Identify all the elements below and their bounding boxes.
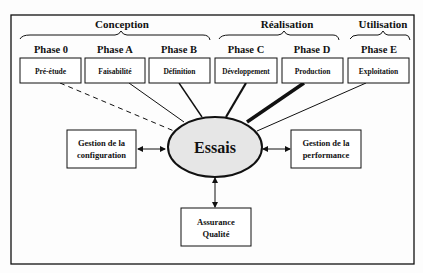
svg-text:configuration: configuration xyxy=(77,150,126,160)
svg-text:Exploitation: Exploitation xyxy=(359,67,399,76)
link-pre-etude xyxy=(60,83,174,131)
phase-box-production: Production xyxy=(282,58,343,83)
box-gestion-performance: Gestion de la performance xyxy=(291,130,361,168)
link-exploitation xyxy=(257,83,366,131)
svg-text:Gestion de la: Gestion de la xyxy=(78,138,126,148)
link-faisabilite xyxy=(129,83,184,122)
link-developpement xyxy=(226,83,246,117)
svg-text:Pré-étude: Pré-étude xyxy=(35,67,67,76)
brace-utilisation xyxy=(350,31,410,40)
phase-title-a: Phase A xyxy=(97,44,133,55)
phase-box-exploitation: Exploitation xyxy=(348,58,409,83)
phase-box-developpement: Développement xyxy=(215,58,277,83)
phase-title-c: Phase C xyxy=(228,44,264,55)
phase-title-b: Phase B xyxy=(161,44,197,55)
phase-box-definition: Définition xyxy=(149,58,210,83)
group-label-utilisation: Utilisation xyxy=(359,18,408,30)
phase-title-e: Phase E xyxy=(361,44,397,55)
box-gestion-configuration: Gestion de la configuration xyxy=(67,130,136,168)
svg-text:performance: performance xyxy=(303,150,350,160)
svg-text:Faisabilité: Faisabilité xyxy=(98,67,132,76)
brace-conception xyxy=(20,31,210,40)
link-definition xyxy=(179,83,202,117)
group-label-conception: Conception xyxy=(95,18,149,30)
phase-title-d: Phase D xyxy=(294,44,331,55)
brace-realisation xyxy=(219,31,339,40)
svg-text:Développement: Développement xyxy=(222,68,270,76)
essais-node: Essais xyxy=(168,117,262,177)
phase-title-0: Phase 0 xyxy=(34,44,68,55)
test-phases-diagram: Conception Réalisation Utilisation Phase… xyxy=(0,0,423,273)
phase-box-faisabilite: Faisabilité xyxy=(85,58,145,83)
phase-box-pre-etude: Pré-étude xyxy=(20,58,81,83)
essais-label: Essais xyxy=(194,139,236,156)
link-production xyxy=(247,83,304,122)
svg-text:Gestion de la: Gestion de la xyxy=(302,138,350,148)
svg-text:Assurance: Assurance xyxy=(197,217,235,227)
svg-text:Production: Production xyxy=(295,67,332,76)
box-assurance-qualite: Assurance Qualité xyxy=(181,208,251,246)
group-label-realisation: Réalisation xyxy=(261,18,314,30)
svg-text:Définition: Définition xyxy=(163,67,196,76)
svg-text:Qualité: Qualité xyxy=(203,229,230,239)
